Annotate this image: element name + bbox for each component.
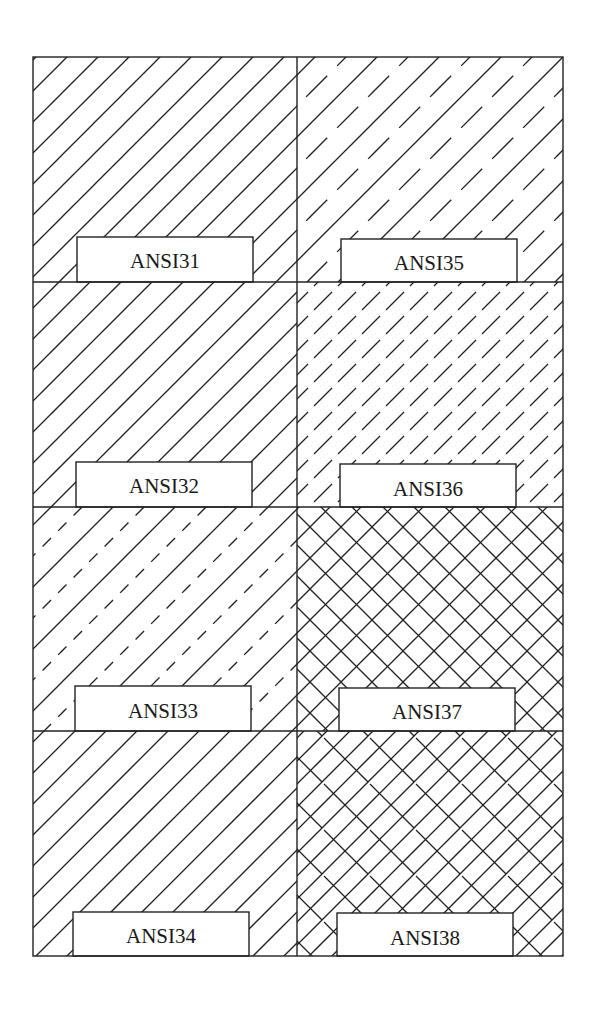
label-ansi35: ANSI35: [394, 251, 464, 275]
label-ansi33: ANSI33: [128, 699, 198, 723]
label-ansi37: ANSI37: [392, 700, 462, 724]
label-ansi36: ANSI36: [393, 477, 463, 501]
label-ansi31: ANSI31: [130, 249, 200, 273]
cell-ansi37: ANSI37: [297, 507, 563, 731]
cell-ansi31: ANSI31: [33, 57, 297, 282]
cell-ansi33: ANSI33: [33, 507, 297, 731]
cell-ansi34: ANSI34: [33, 731, 297, 956]
label-ansi38: ANSI38: [390, 926, 460, 950]
label-ansi32: ANSI32: [129, 474, 199, 498]
cell-ansi35: ANSI35: [297, 57, 563, 282]
hatch-pattern-sheet: ANSI31 ANSI32 ANSI33 ANSI34 ANSI35 ANSI3…: [0, 0, 596, 1017]
cell-ansi38: ANSI38: [297, 731, 563, 956]
cell-ansi32: ANSI32: [33, 282, 297, 507]
label-ansi34: ANSI34: [126, 924, 197, 948]
cell-ansi36: ANSI36: [297, 282, 563, 507]
